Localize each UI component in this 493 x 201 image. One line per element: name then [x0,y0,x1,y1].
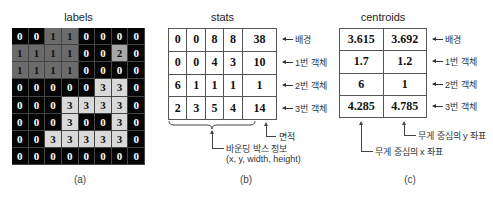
table-cell: 10 [242,51,276,74]
table-row: 4.2854.785 [340,95,427,117]
arrow-left-icon [283,62,293,63]
label-cell: 2 [112,45,129,62]
label-cell: 1 [29,62,46,79]
labels-title: labels [12,11,145,23]
label-cell: 1 [62,28,79,45]
table-cell: 4.285 [340,95,384,117]
label-cell: 0 [29,79,46,96]
label-cell: 0 [12,79,29,96]
table-cell: 2 [169,97,187,120]
arrow-left-icon [283,39,293,40]
label-cell: 0 [12,148,29,165]
label-cell: 1 [45,28,62,45]
arrow-left-icon [283,108,293,109]
label-cell: 0 [79,28,96,45]
label-cell: 3 [112,114,129,131]
table-cell: 1.7 [340,51,384,73]
table-cell: 1 [242,74,276,97]
table-cell: 1 [383,73,427,95]
label-cell: 0 [128,79,145,96]
arrow-left-icon [433,84,443,85]
table-cell: 3 [187,97,205,120]
area-line-h [266,136,276,137]
label-cell: 1 [62,45,79,62]
row-label: 배경 [433,33,461,45]
label-cell: 3 [112,79,129,96]
label-cell: 0 [45,114,62,131]
label-cell: 0 [95,114,112,131]
arrow-left-icon [283,85,293,86]
label-cell: 0 [29,97,46,114]
label-cell: 0 [112,148,129,165]
area-line-v [266,126,267,136]
label-cell: 3 [45,131,62,148]
label-cell: 3 [112,131,129,148]
label-cell: 3 [112,97,129,114]
arrow-left-icon [433,106,443,107]
area-note: 면적 [279,130,295,143]
label-cell: 0 [29,148,46,165]
row-label: 3번 객체 [283,103,327,115]
table-row: 008838 [169,29,277,52]
label-cell: 1 [12,62,29,79]
table-row: 004310 [169,51,277,74]
row-label: 3번 객체 [433,101,477,113]
table-row: 1.71.2 [340,51,427,73]
table-cell: 1 [187,74,205,97]
label-cell: 1 [12,45,29,62]
table-cell: 1 [224,74,242,97]
label-cell: 0 [128,97,145,114]
label-cell: 0 [29,114,46,131]
label-cell: 3 [79,131,96,148]
bbox-note-params: (x, y, width, height) [226,154,301,164]
row-label: 2번 객체 [283,80,327,92]
table-cell: 6 [340,73,384,95]
label-cell: 0 [95,148,112,165]
caption-b: (b) [226,174,266,185]
label-cell: 0 [79,62,96,79]
label-cell: 3 [95,131,112,148]
row-label-text: 배경 [295,33,311,46]
label-cell: 0 [128,45,145,62]
y-line-h [404,135,416,136]
label-cell: 0 [29,131,46,148]
label-cell: 0 [95,28,112,45]
label-cell: 0 [128,62,145,79]
label-cell: 0 [12,28,29,45]
label-cell: 0 [79,79,96,96]
label-cell: 0 [12,97,29,114]
row-label-text: 2번 객체 [295,79,327,92]
table-cell: 14 [242,97,276,120]
label-cell: 0 [79,148,96,165]
table-cell: 4 [224,97,242,120]
label-cell: 0 [128,28,145,45]
label-cell: 0 [45,79,62,96]
x-line-h [361,151,373,152]
centroids-title: centroids [339,11,427,23]
table-cell: 8 [224,29,242,52]
stats-title: stats [168,11,277,23]
label-cell: 0 [45,97,62,114]
label-cell: 0 [79,45,96,62]
table-row: 61 [340,73,427,95]
x-note: 무게 중심의 x 좌표 [375,145,443,158]
arrow-left-icon [433,39,443,40]
table-cell: 8 [205,29,223,52]
table-cell: 4.785 [383,95,427,117]
label-cell: 0 [79,114,96,131]
table-row: 61111 [169,74,277,97]
label-cell: 3 [79,97,96,114]
label-cell: 3 [95,79,112,96]
label-cell: 0 [45,148,62,165]
y-line-v [404,125,405,135]
label-cell: 3 [62,97,79,114]
table-cell: 3.615 [340,29,384,51]
table-row: 235414 [169,97,277,120]
label-cell: 0 [112,28,129,45]
label-cell: 0 [12,114,29,131]
row-label-text: 2번 객체 [445,78,477,91]
label-cell: 0 [128,131,145,148]
table-cell: 3 [224,51,242,74]
label-cell: 1 [45,45,62,62]
label-cell: 3 [62,114,79,131]
